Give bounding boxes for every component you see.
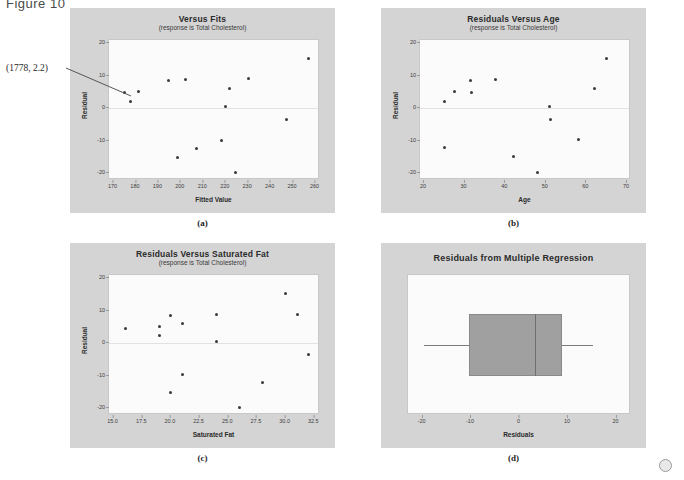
- x-tick-label: 20: [612, 418, 618, 424]
- chart-title-a: Versus Fits: [70, 14, 335, 24]
- annotation-text-a: (1778, 2.2): [6, 63, 48, 73]
- x-tick-label: 20: [420, 183, 426, 189]
- zero-reference-line: [420, 108, 629, 109]
- x-tick-label: -20: [418, 418, 426, 424]
- x-tick-label: 200: [175, 183, 184, 189]
- y-tick-label: 0: [92, 104, 105, 110]
- data-point: [285, 118, 288, 121]
- data-point: [470, 91, 473, 94]
- x-tick-label: 250: [287, 183, 296, 189]
- chart-title-d: Residuals from Multiple Regression: [381, 253, 646, 263]
- x-tick-label: 25.0: [222, 418, 233, 424]
- y-tick-label: 20: [403, 39, 416, 45]
- chart-title-c: Residuals Versus Saturated Fat: [70, 249, 335, 259]
- box-median-line: [535, 314, 536, 376]
- data-point: [238, 406, 241, 409]
- x-tick-label: 220: [220, 183, 229, 189]
- x-tick-label: 32.5: [308, 418, 319, 424]
- zero-reference-line: [109, 108, 318, 109]
- x-tick-label: -10: [466, 418, 474, 424]
- plot-area-c: [108, 274, 319, 414]
- subcaption-d: (d): [381, 453, 646, 463]
- y-axis-label-c: Residual: [81, 321, 88, 361]
- chart-panel-c: Residuals Versus Saturated Fat (response…: [70, 243, 335, 448]
- data-point: [158, 325, 161, 328]
- subcaption-b: (b): [381, 218, 646, 228]
- data-point: [443, 146, 446, 149]
- x-tick-label: 230: [243, 183, 252, 189]
- circle-marker-icon: [659, 459, 672, 472]
- plot-area-b: [419, 39, 630, 179]
- data-point: [494, 78, 497, 81]
- box-iqr: [469, 314, 563, 376]
- x-axis-label-a: Fitted Value: [108, 196, 319, 203]
- x-tick-label: 30: [461, 183, 467, 189]
- plot-area-d: [407, 274, 630, 414]
- x-tick-label: 40: [501, 183, 507, 189]
- chart-title-b: Residuals Versus Age: [381, 14, 646, 24]
- data-point: [296, 313, 299, 316]
- x-tick-label: 50: [542, 183, 548, 189]
- subcaption-c: (c): [70, 453, 335, 463]
- plot-area-a: [108, 39, 319, 179]
- data-point: [284, 292, 287, 295]
- data-point: [129, 100, 132, 103]
- y-tick-label: -10: [92, 137, 105, 143]
- figure-label: Figure 10: [6, 0, 65, 11]
- data-point: [548, 105, 551, 108]
- y-tick-label: 10: [403, 72, 416, 78]
- x-tick-label: 60: [582, 183, 588, 189]
- data-point: [234, 171, 237, 174]
- x-tick-label: 30.0: [279, 418, 290, 424]
- data-point: [247, 77, 250, 80]
- x-tick-label: 10: [564, 418, 570, 424]
- y-tick-label: 10: [92, 307, 105, 313]
- x-axis-label-d: Residuals: [407, 431, 630, 438]
- data-point: [577, 138, 580, 141]
- chart-panel-b: Residuals Versus Age (response is Total …: [381, 8, 646, 213]
- data-point: [261, 381, 264, 384]
- data-point: [181, 373, 184, 376]
- x-tick-label: 17.5: [136, 418, 147, 424]
- x-tick-label: 20.0: [165, 418, 176, 424]
- x-tick-label: 0: [517, 418, 520, 424]
- data-point: [220, 139, 223, 142]
- y-tick-label: 10: [92, 72, 105, 78]
- data-point: [176, 156, 179, 159]
- x-axis-label-c: Saturated Fat: [108, 431, 319, 438]
- chart-subtitle-a: (response is Total Cholesterol): [70, 24, 335, 31]
- chart-panel-d: Residuals from Multiple Regression Resid…: [381, 243, 646, 448]
- data-point: [549, 118, 552, 121]
- data-point: [181, 322, 184, 325]
- data-point: [137, 90, 140, 93]
- data-point: [123, 91, 126, 94]
- data-point: [307, 353, 310, 356]
- data-point: [184, 78, 187, 81]
- y-tick-label: 0: [92, 339, 105, 345]
- data-point: [167, 79, 170, 82]
- y-tick-label: 20: [92, 39, 105, 45]
- data-point: [158, 334, 161, 337]
- zero-reference-line: [109, 343, 318, 344]
- data-point: [469, 79, 472, 82]
- x-tick-label: 70: [623, 183, 629, 189]
- y-axis-label-a: Residual: [81, 86, 88, 126]
- x-tick-label: 210: [198, 183, 207, 189]
- data-point: [536, 171, 539, 174]
- x-tick-label: 22.5: [193, 418, 204, 424]
- x-axis-label-b: Age: [419, 196, 630, 203]
- x-tick-label: 170: [108, 183, 117, 189]
- y-tick-label: -20: [92, 404, 105, 410]
- x-tick-label: 27.5: [251, 418, 262, 424]
- data-point: [512, 155, 515, 158]
- x-tick-label: 260: [310, 183, 319, 189]
- data-point: [169, 314, 172, 317]
- whisker-low: [424, 345, 469, 346]
- y-tick-label: 0: [403, 104, 416, 110]
- y-tick-label: -10: [92, 372, 105, 378]
- data-point: [169, 391, 172, 394]
- data-point: [195, 147, 198, 150]
- x-tick-label: 180: [130, 183, 139, 189]
- x-tick-label: 15.0: [107, 418, 118, 424]
- x-tick-label: 190: [153, 183, 162, 189]
